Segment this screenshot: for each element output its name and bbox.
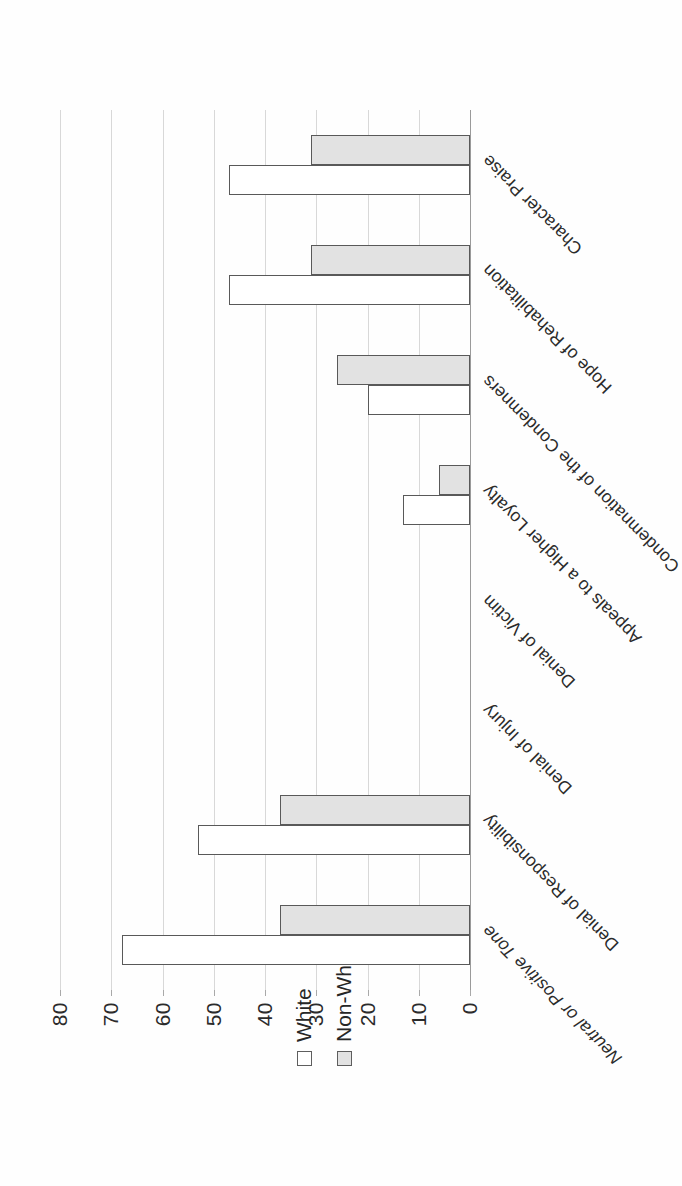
category-group: Character Praise (60, 110, 470, 220)
axis-tick-mark (60, 990, 61, 996)
bar-non-white[interactable] (337, 355, 470, 385)
chart-page: White Non-White 01020304050607080Neutral… (0, 0, 682, 1186)
category-label: Character Praise (478, 150, 587, 259)
bar-chart-figure: White Non-White 01020304050607080Neutral… (0, 0, 682, 1186)
axis-tick-label-80: 80 (48, 1002, 72, 1026)
bar-non-white[interactable] (280, 905, 470, 935)
category-label: Denial of Victim (478, 590, 580, 692)
category-group: Neutral or Positive Tone (60, 880, 470, 990)
axis-baseline (470, 110, 471, 990)
category-group: Denial of Injury (60, 660, 470, 770)
legend-swatch-non-white-icon (337, 1051, 352, 1066)
category-group: Hope of Rehabilitation (60, 220, 470, 330)
axis-tick-mark (368, 990, 369, 996)
legend-swatch-white-icon (297, 1051, 312, 1066)
bar-non-white[interactable] (311, 245, 470, 275)
axis-tick-label-50: 50 (202, 1002, 226, 1026)
category-group: Denial of Victim (60, 550, 470, 660)
axis-tick-mark (316, 990, 317, 996)
category-label: Condemnation of the Condemners (478, 370, 682, 576)
axis-tick-label-40: 40 (253, 1002, 277, 1026)
bar-white[interactable] (122, 935, 471, 965)
axis-tick-label-10: 10 (407, 1002, 431, 1026)
category-group: Condemnation of the Condemners (60, 330, 470, 440)
axis-tick-label-20: 20 (356, 1002, 380, 1026)
category-label: Denial of Injury (478, 700, 577, 799)
plot-area: 01020304050607080Neutral or Positive Ton… (60, 110, 470, 990)
bar-non-white[interactable] (280, 795, 470, 825)
axis-tick-mark (214, 990, 215, 996)
axis-tick-mark (111, 990, 112, 996)
bar-white[interactable] (229, 275, 470, 305)
category-group: Appeals to a Higher Loyalty (60, 440, 470, 550)
axis-tick-mark (470, 990, 471, 996)
bar-non-white[interactable] (439, 465, 470, 495)
axis-tick-mark (265, 990, 266, 996)
bar-white[interactable] (198, 825, 470, 855)
axis-tick-mark (163, 990, 164, 996)
axis-tick-label-60: 60 (151, 1002, 175, 1026)
bar-white[interactable] (403, 495, 470, 525)
axis-tick-mark (419, 990, 420, 996)
bar-white[interactable] (368, 385, 471, 415)
axis-tick-label-0: 0 (458, 1002, 482, 1014)
category-group: Denial of Responsibility (60, 770, 470, 880)
axis-tick-label-30: 30 (304, 1002, 328, 1026)
bar-non-white[interactable] (311, 135, 470, 165)
axis-tick-label-70: 70 (99, 1002, 123, 1026)
bar-white[interactable] (229, 165, 470, 195)
